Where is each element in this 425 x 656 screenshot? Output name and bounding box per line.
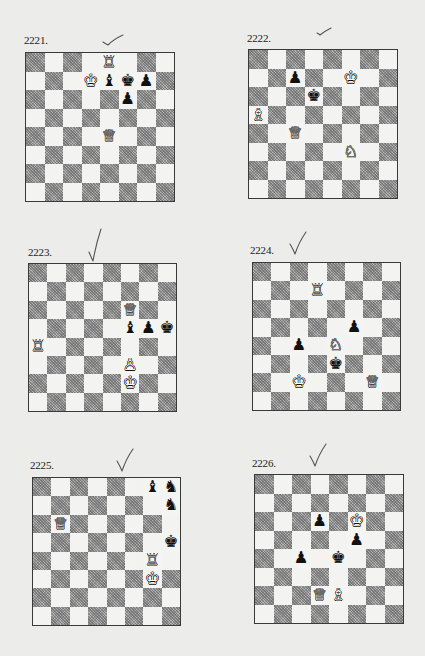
square-h2 xyxy=(158,374,176,392)
square-g6 xyxy=(139,301,157,319)
white-king-icon: ♔ xyxy=(123,375,138,391)
square-g6 xyxy=(137,90,156,109)
white-queen-icon: ♕ xyxy=(365,374,380,390)
square-d5 xyxy=(308,318,326,336)
square-f5 xyxy=(119,109,138,128)
square-c4: ♟ xyxy=(292,549,311,568)
square-a1 xyxy=(29,393,47,411)
square-b8 xyxy=(274,475,293,494)
square-h4 xyxy=(385,549,404,568)
square-b7 xyxy=(51,496,69,514)
square-e5 xyxy=(103,319,121,337)
square-b3 xyxy=(268,143,287,162)
square-a7 xyxy=(29,282,47,300)
white-king-icon: ♔ xyxy=(292,374,307,390)
puzzle-number: 2226. xyxy=(252,457,276,469)
square-a3 xyxy=(26,146,45,165)
square-h8 xyxy=(156,53,175,72)
square-b4 xyxy=(268,124,287,143)
square-c2 xyxy=(66,374,84,392)
checkmark-icon-svg xyxy=(316,26,332,36)
square-d8 xyxy=(82,53,101,72)
black-pawn-icon: ♟ xyxy=(294,550,309,567)
square-c5 xyxy=(286,106,305,125)
square-f4 xyxy=(125,552,143,570)
square-a5 xyxy=(33,533,51,551)
square-b4 xyxy=(271,337,289,355)
square-h1 xyxy=(156,183,175,202)
square-b6: ♕ xyxy=(51,515,69,533)
white-bishop-icon: ♗ xyxy=(251,107,266,124)
square-e5 xyxy=(327,318,345,336)
chess-board: ♖♔♝♚♟♟♕ xyxy=(25,52,175,202)
square-a1 xyxy=(255,605,274,624)
chess-board: ♕♝♟♚♖♙♔ xyxy=(28,263,177,412)
square-f4 xyxy=(345,337,363,355)
square-f5: ♟ xyxy=(348,531,367,550)
square-d4 xyxy=(84,338,102,356)
square-g4 xyxy=(139,338,157,356)
square-e6 xyxy=(327,300,345,318)
square-a1 xyxy=(26,183,45,202)
square-g5 xyxy=(363,318,381,336)
white-pawn-icon: ♙ xyxy=(123,357,138,373)
square-f8 xyxy=(121,264,139,282)
square-c8 xyxy=(66,264,84,282)
square-a3 xyxy=(253,355,271,373)
square-c2 xyxy=(70,588,88,606)
square-b8 xyxy=(268,50,287,69)
square-g1 xyxy=(143,607,161,625)
black-king-icon: ♚ xyxy=(159,320,174,336)
square-c1 xyxy=(70,607,88,625)
square-f5 xyxy=(125,533,143,551)
square-a2 xyxy=(29,374,47,392)
square-g5: ♟ xyxy=(139,319,157,337)
square-f2: ♔ xyxy=(121,374,139,392)
square-h6 xyxy=(158,301,176,319)
square-c1 xyxy=(286,180,305,199)
square-g5 xyxy=(143,533,161,551)
square-c6 xyxy=(286,87,305,106)
square-e8 xyxy=(323,50,342,69)
square-b2 xyxy=(268,161,287,180)
square-g8 xyxy=(139,264,157,282)
white-rook-icon: ♖ xyxy=(310,282,325,298)
square-f3: ♘ xyxy=(342,143,361,162)
white-queen-icon: ♕ xyxy=(123,302,138,318)
square-h7: ♞ xyxy=(162,496,180,514)
square-a6 xyxy=(26,90,45,109)
square-b2 xyxy=(45,164,64,183)
square-b1 xyxy=(47,393,65,411)
square-c3 xyxy=(290,355,308,373)
square-e7 xyxy=(327,281,345,299)
square-h2 xyxy=(385,586,404,605)
white-king-icon: ♔ xyxy=(343,70,358,87)
square-f8 xyxy=(119,53,138,72)
square-g4: ♖ xyxy=(143,552,161,570)
square-f6: ♟ xyxy=(119,90,138,109)
square-e4 xyxy=(323,124,342,143)
square-b6 xyxy=(268,87,287,106)
square-a1 xyxy=(253,392,271,410)
square-h2 xyxy=(379,161,398,180)
square-e3 xyxy=(103,356,121,374)
square-b4 xyxy=(51,552,69,570)
square-g7: ♟ xyxy=(137,72,156,91)
square-d6: ♚ xyxy=(305,87,324,106)
square-b1 xyxy=(274,605,293,624)
square-b3 xyxy=(274,568,293,587)
square-g6 xyxy=(366,512,385,531)
black-pawn-icon: ♟ xyxy=(292,337,307,353)
square-g5 xyxy=(366,531,385,550)
square-b7 xyxy=(47,282,65,300)
square-h6 xyxy=(382,300,400,318)
square-h1 xyxy=(158,393,176,411)
square-h6 xyxy=(385,512,404,531)
square-f8 xyxy=(342,50,361,69)
square-g1 xyxy=(366,605,385,624)
checkmark-icon-svg xyxy=(309,443,327,467)
square-h1 xyxy=(379,180,398,199)
square-g2: ♕ xyxy=(363,373,381,391)
square-d2 xyxy=(308,373,326,391)
square-a6 xyxy=(29,301,47,319)
